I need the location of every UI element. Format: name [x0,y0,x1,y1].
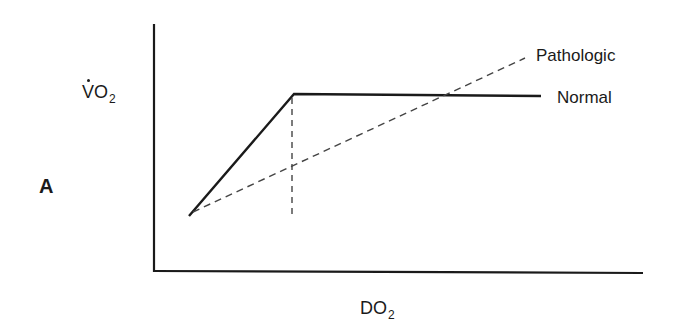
x-axis-label: DO2 [360,299,395,317]
do2-subscript: 2 [388,308,395,322]
panel-label: A [39,176,53,196]
normal-curve [189,94,541,216]
pathologic-curve [193,58,525,212]
legend-pathologic: Pathologic [536,47,615,64]
vo2-subscript: 2 [109,92,116,106]
legend-normal: Normal [557,89,612,106]
do2-base: DO [360,298,387,318]
y-axis-label: VO2 [82,83,116,101]
x-axis [153,271,643,273]
vo2-base: VO [82,83,108,101]
